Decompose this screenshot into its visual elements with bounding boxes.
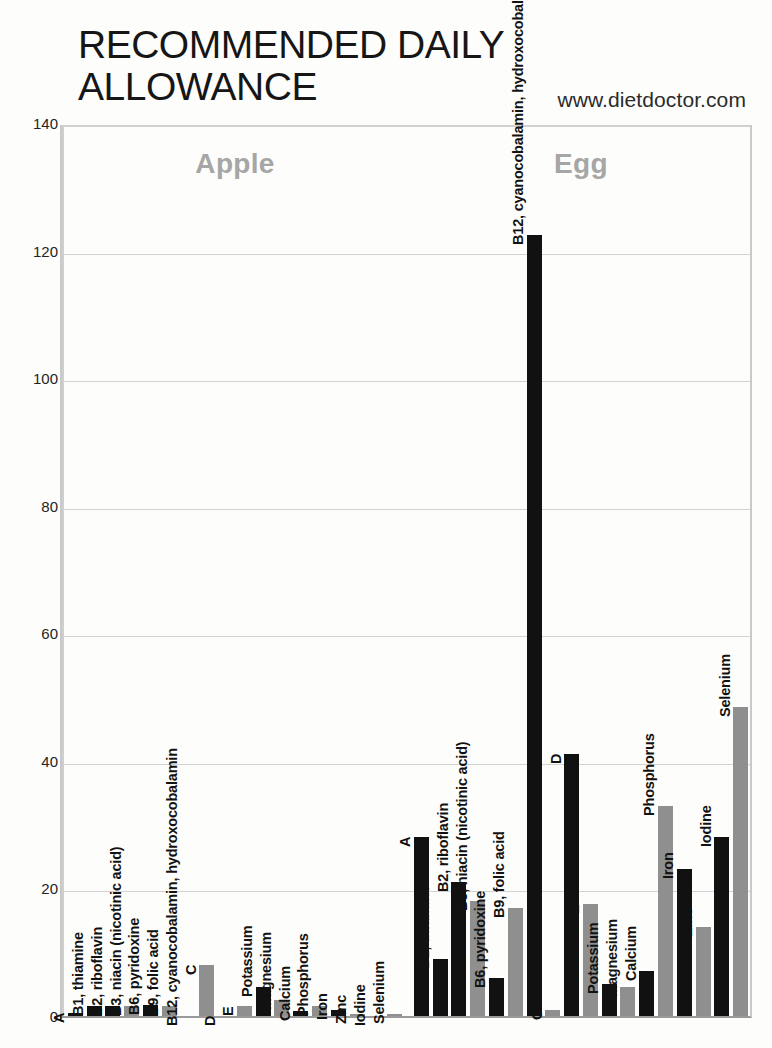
bar-label: D (548, 754, 564, 764)
bar-fill (620, 987, 635, 1016)
bar-apple-14: Iron (331, 123, 346, 1016)
bar-label: B12, cyanocobalamin, hydroxocobalamin (510, 0, 526, 245)
bar-label: B9, folic acid (145, 930, 161, 1017)
y-tick-label-60: 60 (12, 625, 58, 642)
bar-label: Iron (660, 853, 676, 880)
bar-label: Iodine (352, 985, 368, 1027)
bar-label: C (529, 1009, 545, 1019)
y-tick-label-80: 80 (12, 498, 58, 515)
bar-label: B1, thiamine (416, 885, 432, 969)
bar-fill (733, 707, 748, 1016)
bar-apple-3: B3, niacin (nicotinic acid) (124, 123, 139, 1016)
bar-label: Selenium (717, 654, 733, 717)
bar-fill (199, 965, 214, 1016)
bar-label: B6, pyridoxine (126, 918, 142, 1015)
bar-fill (489, 978, 504, 1016)
bar-fill (387, 1014, 402, 1016)
bar-label: A (51, 1013, 67, 1023)
bar-fill (508, 908, 523, 1016)
bar-label: Iron (314, 993, 330, 1020)
bar-fill (658, 806, 673, 1016)
bar-label: A (397, 837, 413, 847)
bar-egg-15: Zinc (696, 123, 711, 1016)
bar-label: B2, riboflavin (89, 927, 105, 1016)
bar-label: Zinc (333, 995, 349, 1024)
bar-apple-11: Magnesium (274, 123, 289, 1016)
bar-fill (696, 927, 711, 1016)
bar-label: Potassium (585, 923, 601, 995)
y-tick-label-140: 140 (12, 115, 58, 132)
bar-egg-3: B3, niacin (nicotinic acid) (470, 123, 485, 1016)
bar-label: Iodine (698, 806, 714, 848)
bar-egg-10: Potassium (602, 123, 617, 1016)
bar-egg-0: A (414, 123, 429, 1016)
bar-egg-11: Magnesium (620, 123, 635, 1016)
bar-apple-4: B6, pyridoxine (143, 123, 158, 1016)
bar-label: Magnesium (604, 919, 620, 997)
chart-page: RECOMMENDED DAILY ALLOWANCE www.dietdoct… (0, 0, 772, 1048)
bar-fill (564, 754, 579, 1016)
bar-series: AB1, thiamineB2, riboflavinB3, niacin (n… (62, 126, 750, 1016)
bar-label: Selenium (371, 961, 387, 1024)
bar-label: B3, niacin (nicotinic acid) (454, 742, 470, 911)
bar-fill (545, 1010, 560, 1016)
bar-egg-17: Selenium (733, 123, 748, 1016)
bar-fill (237, 1006, 252, 1016)
bar-apple-10: Potassium (256, 123, 271, 1016)
source-website-label: www.dietdoctor.com (557, 88, 746, 112)
bar-egg-8: D (564, 123, 579, 1016)
bar-label: Zinc (679, 908, 695, 937)
bar-apple-12: Calcium (293, 123, 308, 1016)
bar-fill (433, 959, 448, 1016)
bar-egg-7: C (545, 123, 560, 1016)
bar-apple-8: D (218, 123, 233, 1016)
bar-label: B12, cyanocobalamin, hydroxocobalamin (164, 748, 180, 1026)
bar-apple-9: E (237, 123, 252, 1016)
bar-apple-0: A (68, 123, 83, 1016)
page-title: RECOMMENDED DAILY ALLOWANCE (78, 24, 548, 108)
bar-fill (714, 837, 729, 1016)
bar-egg-14: Iron (677, 123, 692, 1016)
bar-label: Potassium (239, 926, 255, 998)
bar-label: B2, riboflavin (435, 803, 451, 892)
bar-egg-9: E (583, 123, 598, 1016)
bar-label: D (202, 1016, 218, 1026)
bar-label: E (220, 1007, 236, 1016)
bar-fill (527, 235, 542, 1016)
bar-fill (677, 869, 692, 1016)
bar-label: B3, niacin (nicotinic acid) (108, 847, 124, 1016)
bar-apple-7: C (199, 123, 214, 1016)
bar-apple-15: Zinc (350, 123, 365, 1016)
bar-egg-12: Calcium (639, 123, 654, 1016)
bar-apple-6: B12, cyanocobalamin, hydroxocobalamin (181, 123, 196, 1016)
bar-label: Phosphorus (295, 934, 311, 1017)
bar-label: Magnesium (258, 932, 274, 1010)
bar-label: E (566, 905, 582, 914)
bar-fill (639, 971, 654, 1016)
y-tick-label-100: 100 (12, 370, 58, 387)
bar-label: B1, thiamine (70, 933, 86, 1017)
y-tick-label-120: 120 (12, 243, 58, 260)
bar-label: Calcium (277, 966, 293, 1021)
plot-area: AppleEgg AB1, thiamineB2, riboflavinB3, … (60, 125, 752, 1018)
bar-egg-6: B12, cyanocobalamin, hydroxocobalamin (527, 123, 542, 1016)
bar-apple-16: Iodine (368, 123, 383, 1016)
bar-egg-5: B9, folic acid (508, 123, 523, 1016)
bar-label: Phosphorus (641, 733, 657, 816)
bar-label: B9, folic acid (491, 831, 507, 918)
bar-label: C (183, 965, 199, 975)
y-tick-label-20: 20 (12, 880, 58, 897)
bar-label: Calcium (623, 926, 639, 981)
bar-apple-17: Selenium (387, 123, 402, 1016)
bar-label: B6, pyridoxine (472, 891, 488, 988)
bar-egg-16: Iodine (714, 123, 729, 1016)
bar-egg-13: Phosphorus (658, 123, 673, 1016)
bar-apple-1: B1, thiamine (87, 123, 102, 1016)
bar-apple-13: Phosphorus (312, 123, 327, 1016)
y-tick-label-40: 40 (12, 753, 58, 770)
